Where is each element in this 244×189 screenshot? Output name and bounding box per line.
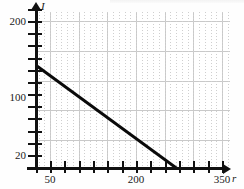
y-axis-label: I: [41, 0, 45, 12]
y-axis-tick: [28, 45, 42, 47]
y-axis-tick: [28, 106, 42, 108]
gridline-minor-vertical: [130, 12, 131, 168]
x-axis-tick: [179, 161, 181, 173]
gridline-minor-vertical: [119, 12, 120, 168]
y-axis-tick: [28, 143, 42, 145]
x-axis-tick: [122, 161, 124, 173]
gridline-minor-vertical: [107, 12, 108, 168]
gridline-minor-vertical: [199, 12, 200, 168]
y-axis-tick: [28, 21, 42, 23]
x-axis-tick: [64, 161, 66, 173]
gridline-minor-vertical: [84, 12, 85, 168]
gridline-major-horizontal: [35, 140, 230, 141]
gridline-minor-vertical: [79, 12, 80, 168]
gridline-minor-vertical: [50, 12, 51, 168]
y-axis-tick: [28, 82, 42, 84]
x-axis-tick: [150, 161, 152, 173]
gridline-minor-vertical: [176, 12, 177, 168]
gridline-minor-vertical: [96, 12, 97, 168]
x-tick-label: 200: [118, 174, 154, 185]
gridline-minor-vertical: [228, 12, 229, 168]
gridline-minor-vertical: [222, 12, 223, 168]
chart-figure: 2001002050200350 I r: [0, 0, 244, 189]
gridline-major-horizontal: [35, 51, 230, 52]
x-axis-tick: [79, 161, 81, 173]
y-axis-tick: [28, 94, 42, 96]
gridline-minor-vertical: [211, 12, 212, 168]
y-tick-label: 20: [0, 150, 26, 161]
x-axis-tick: [93, 161, 95, 173]
x-axis-tick: [165, 161, 167, 173]
gridline-minor-vertical: [56, 12, 57, 168]
plot-area: [35, 12, 230, 168]
gridline-major-horizontal: [35, 81, 230, 82]
gridline-minor-vertical: [90, 12, 91, 168]
gridline-minor-vertical: [165, 12, 166, 168]
gridline-minor-vertical: [170, 12, 171, 168]
gridline-minor-vertical: [159, 12, 160, 168]
gridline-minor-vertical: [61, 12, 62, 168]
x-axis-arrow-icon: [223, 164, 231, 174]
gridline-major-horizontal: [35, 110, 230, 111]
y-tick-label: 200: [0, 16, 26, 27]
x-axis-tick: [193, 161, 195, 173]
gridline-minor-vertical: [113, 12, 114, 168]
gridline-minor-vertical: [188, 12, 189, 168]
gridline-minor-vertical: [193, 12, 194, 168]
gridline-minor-vertical: [205, 12, 206, 168]
x-axis-tick: [50, 161, 52, 173]
gridline-minor-vertical: [136, 12, 137, 168]
x-axis-label: r: [232, 172, 236, 184]
gridline-minor-vertical: [216, 12, 217, 168]
x-axis-tick: [208, 161, 210, 173]
gridline-major-horizontal: [35, 21, 230, 22]
x-axis-tick: [136, 161, 138, 173]
y-tick-label: 100: [0, 92, 26, 103]
gridline-minor-vertical: [44, 12, 45, 168]
y-axis-tick: [28, 33, 42, 35]
y-axis-tick: [28, 70, 42, 72]
x-tick-label: 50: [32, 174, 68, 185]
y-axis-tick: [28, 118, 42, 120]
gridline-minor-vertical: [182, 12, 183, 168]
x-axis-tick: [222, 161, 224, 173]
scan-artifact-band: [110, 0, 244, 3]
gridline-minor-vertical: [153, 12, 154, 168]
y-axis-tick: [28, 155, 42, 157]
gridline-minor-vertical: [102, 12, 103, 168]
x-axis-tick: [36, 161, 38, 173]
y-axis-tick: [28, 9, 42, 11]
y-axis-tick: [28, 58, 42, 60]
gridline-minor-vertical: [125, 12, 126, 168]
y-axis-tick: [28, 131, 42, 133]
x-axis-tick: [107, 161, 109, 173]
